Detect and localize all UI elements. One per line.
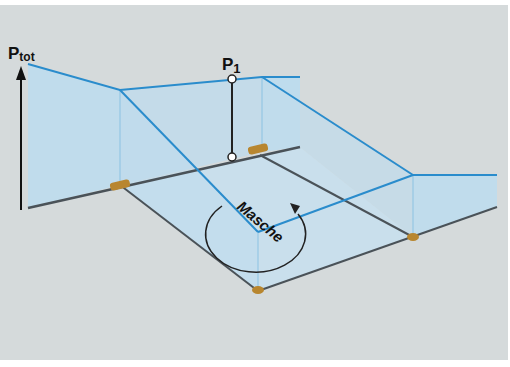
fitting <box>252 286 264 294</box>
p1-label: P1 <box>222 55 241 76</box>
pressure-mesh-diagram: Ptot P1 Masche <box>0 0 510 367</box>
ptot-label: Ptot <box>8 44 35 64</box>
p1-base-point <box>228 153 236 161</box>
ptot-arrowhead-icon <box>16 66 26 80</box>
p1-top-point <box>228 75 236 83</box>
pressure-wall-right <box>413 175 497 237</box>
fitting <box>407 233 419 241</box>
